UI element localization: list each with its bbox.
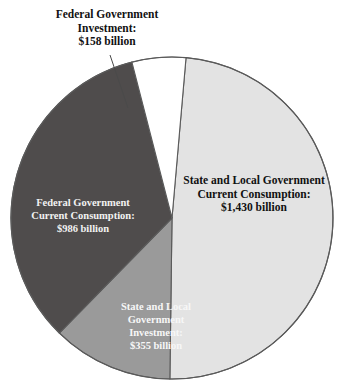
pie-label-state-local-current-consumption: State and Local Government Current Consu… bbox=[176, 174, 332, 215]
pie-label-federal-investment-line2: Investment: bbox=[22, 22, 192, 36]
pie-label-federal-investment-line1: Federal Government bbox=[22, 8, 192, 22]
pie-label-sl-investment-line2: Government bbox=[104, 313, 208, 326]
pie-label-sl-consumption-line2: Current Consumption: bbox=[176, 188, 332, 202]
pie-label-state-local-investment: State and Local Government Investment: $… bbox=[104, 300, 208, 352]
pie-label-federal-current-consumption: Federal Government Current Consumption: … bbox=[16, 196, 150, 235]
pie-label-federal-consumption-line2: Current Consumption: bbox=[16, 209, 150, 222]
pie-label-sl-investment-line3: Investment: bbox=[104, 326, 208, 339]
pie-chart-figure: Federal Government Investment: $158 bill… bbox=[0, 0, 347, 383]
pie-label-federal-consumption-line1: Federal Government bbox=[16, 196, 150, 209]
pie-label-federal-investment-line3: $158 billion bbox=[22, 35, 192, 49]
pie-label-federal-investment: Federal Government Investment: $158 bill… bbox=[22, 8, 192, 49]
pie-label-sl-investment-line1: State and Local bbox=[104, 300, 208, 313]
pie-label-sl-consumption-line3: $1,430 billion bbox=[176, 201, 332, 215]
pie-label-sl-consumption-line1: State and Local Government bbox=[176, 174, 332, 188]
pie-label-sl-investment-line4: $355 billion bbox=[104, 339, 208, 352]
pie-label-federal-consumption-line3: $986 billion bbox=[16, 222, 150, 235]
